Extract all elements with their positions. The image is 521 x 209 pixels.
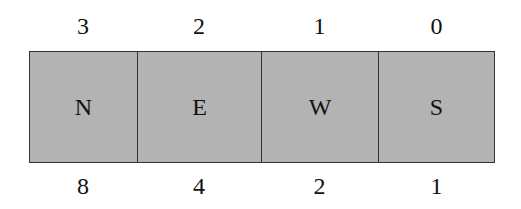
cell-n: N — [30, 52, 138, 162]
top-label-e: 2 — [137, 12, 261, 40]
cell-e: E — [138, 52, 262, 162]
cell-s: S — [379, 52, 494, 162]
bottom-value-row: 8 4 2 1 — [29, 172, 495, 200]
bottom-label-w: 2 — [261, 172, 378, 200]
cell-w: W — [262, 52, 379, 162]
bottom-label-n: 8 — [29, 172, 137, 200]
bottom-label-e: 4 — [137, 172, 261, 200]
direction-box: N E W S — [29, 51, 495, 163]
top-label-s: 0 — [378, 12, 495, 40]
top-label-n: 3 — [29, 12, 137, 40]
top-index-row: 3 2 1 0 — [29, 12, 495, 40]
bottom-label-s: 1 — [378, 172, 495, 200]
top-label-w: 1 — [261, 12, 378, 40]
